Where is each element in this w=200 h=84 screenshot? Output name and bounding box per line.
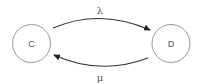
edge-label-mu: μ <box>97 72 104 83</box>
edge-label-lambda: λ <box>97 5 104 16</box>
arrow-d-to-c <box>54 55 148 66</box>
node-c-label: C <box>28 39 35 49</box>
node-d-label: D <box>168 39 175 49</box>
state-diagram: C D λ μ <box>0 0 200 84</box>
node-c: C <box>13 25 51 63</box>
edge-d-to-c: μ <box>54 55 148 83</box>
node-d: D <box>152 25 190 63</box>
arrow-c-to-d <box>53 18 150 30</box>
edge-c-to-d: λ <box>53 5 150 31</box>
